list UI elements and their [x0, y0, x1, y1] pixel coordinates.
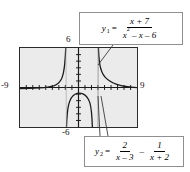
curve-middle-branch	[67, 93, 93, 127]
y2-term2-numerator: 1	[154, 141, 165, 152]
y1-numerator: x + 7	[127, 17, 152, 28]
equation-y2: y2 = 2 x – 3 – 1 x + 2	[95, 141, 173, 162]
y2-subscript: 2	[100, 151, 103, 157]
graph-plot	[20, 48, 137, 127]
y2-equals-sign: =	[105, 147, 110, 156]
x-max-label: 9	[140, 81, 145, 90]
y-max-label: 6	[66, 35, 71, 44]
callout-y2: y2 = 2 x – 3 – 1 x + 2	[84, 136, 184, 167]
y2-minus-sign: –	[140, 147, 145, 156]
figure-container: -9 9 6 -6 y1 = x + 7 x2 – x – 6 y2 = 2 x…	[0, 0, 190, 172]
y2-term2-denominator: x + 2	[147, 152, 172, 162]
y-min-label: -6	[62, 128, 70, 137]
curve-left-branch	[20, 48, 66, 89]
y1-lhs-symbol: y	[102, 24, 106, 33]
y1-fraction: x + 7 x2 – x – 6	[120, 17, 160, 40]
y2-first-fraction: 2 x – 3	[113, 141, 137, 162]
callout-y1: y1 = x + 7 x2 – x – 6	[79, 12, 183, 45]
y1-denominator: x2 – x – 6	[120, 28, 160, 40]
y2-term1-denominator: x – 3	[113, 152, 137, 162]
curve-right-branch	[98, 48, 137, 88]
y1-denominator-rest: – x – 6	[130, 30, 157, 40]
y2-lhs-symbol: y	[95, 147, 99, 156]
y1-equals-sign: =	[112, 24, 117, 33]
x-min-label: -9	[1, 81, 9, 90]
equation-y1: y1 = x + 7 x2 – x – 6	[102, 17, 161, 40]
y2-term1-numerator: 2	[120, 141, 131, 152]
y1-subscript: 1	[107, 28, 110, 34]
graph-window	[19, 47, 138, 128]
y1-denominator-exponent: 2	[127, 26, 130, 32]
y2-second-fraction: 1 x + 2	[147, 141, 172, 162]
